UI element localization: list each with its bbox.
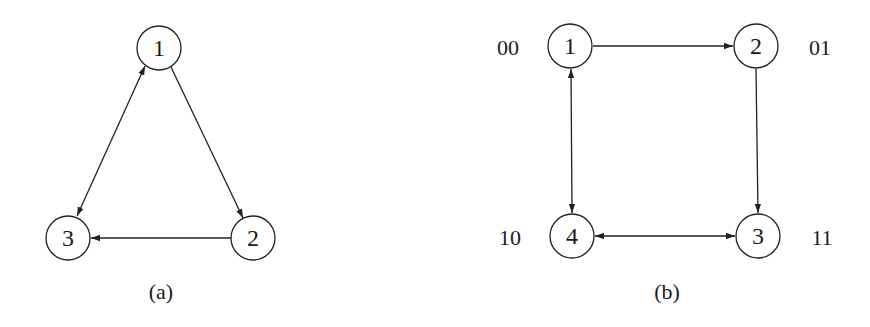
edge-b-1-4-bidirectional bbox=[571, 69, 572, 213]
node-b-4: 4 bbox=[550, 214, 594, 258]
diagram-b: 1 2 3 4 00 01 11 10 (b) bbox=[497, 24, 833, 304]
diagram-a: 1 2 3 (a) bbox=[46, 26, 275, 304]
node-b-1-code: 00 bbox=[497, 35, 519, 60]
edge-b-2-to-3 bbox=[756, 69, 758, 213]
node-b-1-label: 1 bbox=[564, 33, 576, 59]
node-b-4-label: 4 bbox=[566, 223, 578, 249]
node-b-3-label: 3 bbox=[752, 223, 764, 249]
node-a-2-label: 2 bbox=[247, 225, 259, 251]
node-b-2-label: 2 bbox=[750, 33, 762, 59]
node-a-2: 2 bbox=[231, 216, 275, 260]
node-b-4-code: 10 bbox=[499, 225, 521, 250]
diagram-canvas: 1 2 3 (a) 1 2 3 4 bbox=[0, 0, 870, 327]
node-a-3: 3 bbox=[46, 216, 90, 260]
node-b-2-code: 01 bbox=[809, 35, 831, 60]
node-b-3-code: 11 bbox=[811, 225, 832, 250]
node-a-3-label: 3 bbox=[62, 225, 74, 251]
node-a-1-label: 1 bbox=[153, 35, 165, 61]
node-b-2: 2 bbox=[734, 24, 778, 68]
node-a-1: 1 bbox=[137, 26, 181, 70]
node-b-3: 3 bbox=[736, 214, 780, 258]
caption-b: (b) bbox=[654, 279, 680, 304]
caption-a: (a) bbox=[149, 279, 173, 304]
node-b-1: 1 bbox=[548, 24, 592, 68]
edge-a-1-to-2 bbox=[171, 67, 243, 218]
edge-a-1-3-bidirectional bbox=[77, 66, 145, 216]
